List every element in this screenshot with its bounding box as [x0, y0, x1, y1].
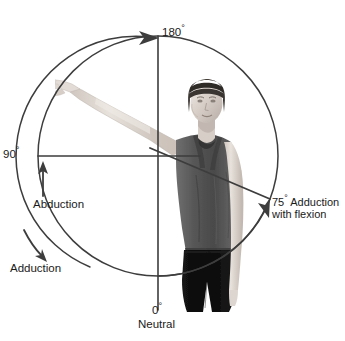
label-75-text: Adduction — [288, 196, 339, 208]
label-180-degree-symbol: ° — [181, 23, 185, 33]
diagram-background — [0, 0, 345, 341]
label-neutral: Neutral — [138, 318, 175, 331]
label-abduction: Abduction — [33, 198, 84, 211]
label-75-adduction-with-flexion: 75° Adductionwith flexion — [272, 196, 339, 221]
label-75-value: 75 — [272, 196, 284, 208]
label-90-degree-symbol: ° — [16, 145, 20, 155]
label-0-degree-symbol: ° — [158, 301, 162, 311]
label-180-degrees: 180° — [162, 26, 185, 39]
range-of-motion-diagram — [0, 0, 345, 341]
label-adduction: Adduction — [10, 262, 61, 275]
label-90-degrees: 90° — [3, 148, 19, 161]
label-180-value: 180 — [162, 26, 181, 38]
label-75-line2: with flexion — [272, 208, 339, 220]
label-90-value: 90 — [3, 148, 16, 160]
label-0-degrees: 0° — [152, 304, 162, 317]
